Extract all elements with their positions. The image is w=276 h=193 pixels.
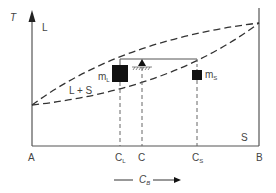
temperature-label: T [10, 13, 16, 23]
tick-c-label: C [138, 153, 145, 163]
liquid-mass-block [112, 65, 128, 82]
tick-b-label: B [256, 153, 263, 163]
fulcrum-icon [138, 59, 146, 66]
liquid-mass-label: mL [98, 72, 110, 83]
axis-arrow-icon [29, 10, 36, 22]
tick-cs-label: CS [192, 153, 203, 164]
region-solid-label: S [241, 133, 248, 143]
solid-mass-label: mS [205, 70, 217, 81]
liquidus-curve [32, 23, 259, 105]
tick-a-label: A [28, 153, 35, 163]
tick-cl-label: CL [115, 153, 126, 164]
solidus-curve [32, 23, 259, 105]
composition-axis-label: CB [139, 175, 150, 186]
region-liquid-label: L [42, 23, 48, 33]
solid-mass-block [192, 70, 202, 80]
composition-arrow-icon [174, 177, 181, 183]
region-two-phase-label: L + S [69, 86, 92, 96]
